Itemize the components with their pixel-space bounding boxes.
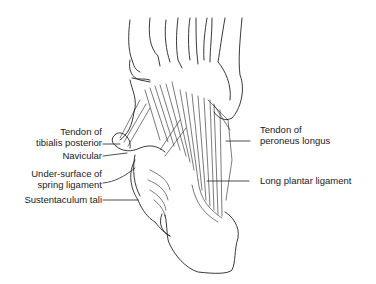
label-line: tibialis posterior [36,137,102,148]
calcaneus-bone [131,160,239,273]
label-sustentaculum-tali: Sustentaculum tali [24,194,102,205]
label-line: spring ligament [31,179,102,190]
label-line: Under-surface of [31,168,102,179]
label-spring-ligament: Under-surface of spring ligament [31,168,102,190]
label-line: peroneus longus [260,135,330,146]
label-line: Tendon of [36,126,102,137]
label-line: Tendon of [260,124,330,135]
leader-lines [103,141,250,200]
ligament-fibers [120,82,232,222]
label-line: Navicular [62,150,102,161]
label-navicular: Navicular [62,150,102,161]
label-line: Long plantar ligament [260,175,351,186]
label-line: Sustentaculum tali [24,194,102,205]
label-long-plantar-ligament: Long plantar ligament [260,175,351,186]
label-tendon-tibialis-posterior: Tendon of tibialis posterior [36,126,102,148]
label-tendon-peroneus-longus: Tendon of peroneus longus [260,124,330,146]
